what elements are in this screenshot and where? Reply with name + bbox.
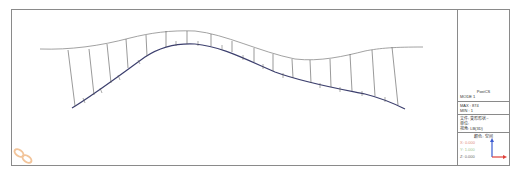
node-markers: [83, 41, 385, 103]
divider: [458, 114, 510, 115]
chain-link-icon: [12, 148, 36, 164]
mode-label: MODE 1: [460, 94, 475, 99]
undeformed-shape-line: [40, 31, 423, 60]
min-value: MIN : 1: [460, 108, 473, 113]
divider: [458, 101, 510, 102]
axis-triad-icon: [486, 137, 508, 161]
z-coordinate: Z: 0.000: [460, 154, 475, 159]
view-label: 视角: LB(3D): [460, 126, 483, 131]
displacement-vectors: [68, 31, 398, 106]
x-coordinate: X: 0.000: [460, 140, 475, 145]
info-panel: PostCS MODE 1 MAX : 874 MIN : 1 文件: 变形形状…: [457, 9, 510, 166]
deformed-shape-plot[interactable]: [0, 0, 457, 175]
y-coordinate: Y: 1.000: [460, 147, 475, 152]
